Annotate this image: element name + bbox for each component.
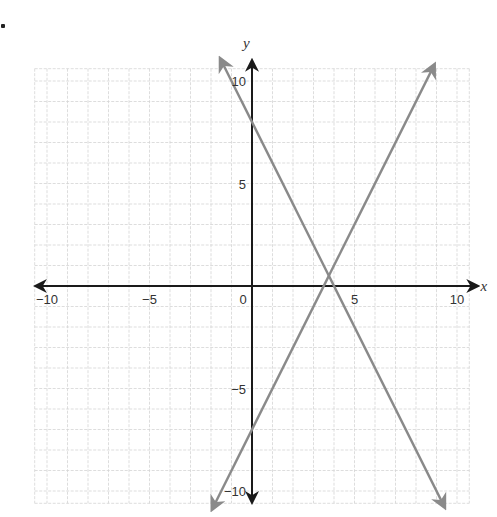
line-increasing [212,65,434,510]
x-tick-label: 10 [450,292,464,307]
x-tick-label: −5 [142,292,157,307]
x-tick-label: 0 [239,292,246,307]
x-axis-label: x [480,278,488,294]
y-tick-label: −5 [231,382,246,397]
y-axis-label: y [241,35,250,51]
plotted-lines [212,58,445,509]
x-tick-label: −10 [36,292,58,307]
axes [36,61,478,503]
coordinate-plane: −10−50510105−5−10xy [0,0,497,517]
x-tick-label: 5 [351,292,358,307]
y-tick-label: 5 [239,177,246,192]
y-tick-label: −10 [224,484,246,499]
y-tick-label: 10 [232,74,246,89]
line-decreasing [220,58,444,507]
